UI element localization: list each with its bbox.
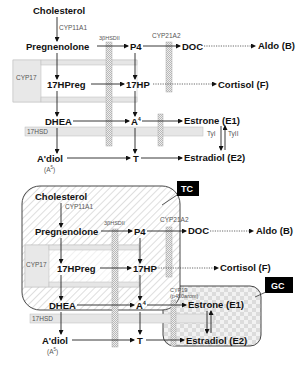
bottom-panel: CYP17 17HSD 3βHSDII CYP21A2 TC GC Choles…	[22, 181, 293, 356]
enzyme-cyp21a2: CYP21A2	[152, 32, 181, 39]
molecule-doc-bottom: DOC	[188, 225, 209, 236]
enzyme-cyp21a2-bottom: CYP21A2	[160, 216, 189, 223]
molecule-aldo-bottom: Aldo (B)	[256, 225, 293, 236]
molecule-17hpreg: 17HPreg	[47, 79, 86, 90]
molecule-estrone: Estrone (E1)	[184, 115, 240, 126]
hsd3b-pillar	[106, 42, 112, 146]
molecule-estradiol: Estradiol (E2)	[184, 152, 245, 163]
gc-label: GC	[271, 281, 285, 291]
molecule-t: T	[133, 153, 139, 164]
molecule-a4: A4	[131, 116, 141, 127]
molecule-pregnenolone-bottom: Pregnenolone	[35, 226, 98, 237]
enzyme-17hsd-bottom: 17HSD	[32, 315, 53, 322]
molecule-17hpreg-bottom: 17HPreg	[57, 263, 96, 274]
molecule-aldo: Aldo (B)	[258, 40, 295, 51]
molecule-pregnenolone: Pregnenolone	[26, 41, 89, 52]
molecule-17hp: 17HP	[126, 79, 150, 90]
molecule-adiol-bottom: A'diol	[42, 335, 68, 346]
molecule-estradiol-bottom: Estradiol (E2)	[186, 335, 247, 346]
molecule-doc: DOC	[182, 41, 203, 52]
enzyme-cyp17: CYP17	[16, 74, 37, 81]
enzyme-tyII: TyII	[228, 130, 239, 138]
molecule-p4: P4	[130, 41, 142, 52]
enzyme-cyp11a1: CYP11A1	[59, 24, 87, 31]
molecule-17hp-bottom: 17HP	[133, 263, 157, 274]
enzyme-cyp11a1-bottom: CYP11A1	[65, 203, 93, 210]
molecule-adiol: A'diol	[37, 153, 63, 164]
enzyme-tyI: TyI	[207, 130, 216, 138]
molecule-t-bottom: T	[137, 335, 143, 346]
molecule-cholesterol: Cholesterol	[33, 5, 85, 16]
molecule-estrone-bottom: Estrone (E1)	[188, 299, 244, 310]
molecule-cortisol-bottom: Cortisol (F)	[220, 262, 271, 273]
enzyme-cyp17-bottom: CYP17	[26, 261, 47, 268]
enzyme-17hsd: 17HSD	[27, 128, 48, 135]
enzyme-3bhsd-bottom: 3βHSDII	[104, 220, 125, 226]
hsd17-band	[25, 127, 203, 136]
molecule-adiol-alt: (A5)	[44, 165, 55, 174]
molecule-dhea-bottom: DHEA	[49, 300, 76, 311]
molecule-cholesterol-bottom: Cholesterol	[35, 191, 87, 202]
molecule-adiol-alt-bottom: (A5)	[47, 347, 58, 356]
top-panel: CYP17 17HSD 3βHSDII CYP21A2 Cholesterol …	[13, 5, 295, 174]
tc-label: TC	[181, 184, 193, 194]
molecule-cortisol: Cortisol (F)	[218, 79, 269, 90]
molecule-p4-bottom: P4	[134, 226, 146, 237]
molecule-dhea: DHEA	[45, 116, 72, 127]
steroid-pathway-diagram: CYP17 17HSD 3βHSDII CYP21A2 Cholesterol …	[0, 0, 302, 366]
enzyme-3bhsd: 3βHSDII	[99, 35, 120, 41]
cyp21a2-pillar	[166, 42, 172, 92]
